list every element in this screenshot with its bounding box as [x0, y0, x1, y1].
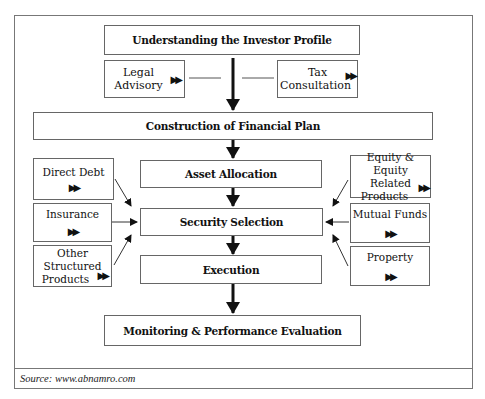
- asset-allocation-box: Asset Allocation: [140, 160, 322, 188]
- legal-advisory-line2: Advisory: [114, 79, 162, 92]
- monitoring-label: Monitoring & Performance Evaluation: [123, 325, 341, 337]
- asset-allocation-label: Asset Allocation: [185, 168, 277, 180]
- other-structured-box: Other Structured Products ▶▶: [33, 245, 112, 287]
- other-structured-line2: Structured: [43, 260, 101, 273]
- financial-plan-box: Construction of Financial Plan: [33, 112, 433, 140]
- equity-line2: Related: [370, 177, 411, 190]
- tax-consultation-line2: Consultation: [280, 79, 351, 92]
- equity-line1: Equity & Equity: [351, 151, 430, 177]
- fast-forward-icon: ▶▶: [68, 227, 77, 237]
- tax-consultation-line1: Tax: [308, 66, 327, 79]
- source-caption: Source: www.abnamro.com: [20, 373, 135, 384]
- fast-forward-icon: ▶▶: [419, 183, 428, 193]
- mutual-funds-label: Mutual Funds: [353, 208, 427, 221]
- financial-plan-label: Construction of Financial Plan: [146, 120, 320, 132]
- property-label: Property: [367, 251, 414, 264]
- monitoring-box: Monitoring & Performance Evaluation: [104, 315, 361, 346]
- direct-debt-label: Direct Debt: [42, 166, 104, 179]
- investor-profile-box: Understanding the Investor Profile: [104, 25, 360, 55]
- insurance-label: Insurance: [46, 208, 99, 221]
- fast-forward-icon: ▶▶: [69, 183, 78, 193]
- tax-consultation-box: Tax Consultation ▶▶: [277, 60, 358, 98]
- security-selection-box: Security Selection: [140, 208, 323, 236]
- execution-label: Execution: [203, 264, 260, 276]
- execution-box: Execution: [140, 255, 322, 284]
- other-structured-line1: Other: [57, 247, 88, 260]
- other-structured-line3: Products: [42, 273, 89, 286]
- fast-forward-icon: ▶▶: [385, 229, 394, 239]
- legal-advisory-box: Legal Advisory ▶▶: [104, 60, 185, 98]
- fast-forward-icon: ▶▶: [98, 271, 107, 281]
- equity-box: Equity & Equity Related Products ▶▶: [350, 155, 431, 198]
- mutual-funds-box: Mutual Funds ▶▶: [350, 203, 430, 243]
- direct-debt-box: Direct Debt ▶▶: [33, 158, 114, 200]
- investor-profile-label: Understanding the Investor Profile: [132, 34, 331, 46]
- fast-forward-icon: ▶▶: [346, 71, 355, 81]
- equity-line3: Products: [361, 190, 408, 203]
- security-selection-label: Security Selection: [180, 216, 284, 228]
- fast-forward-icon: ▶▶: [385, 272, 394, 282]
- insurance-box: Insurance ▶▶: [33, 203, 112, 242]
- fast-forward-icon: ▶▶: [171, 75, 180, 85]
- property-box: Property ▶▶: [350, 246, 430, 286]
- legal-advisory-line1: Legal: [123, 66, 154, 79]
